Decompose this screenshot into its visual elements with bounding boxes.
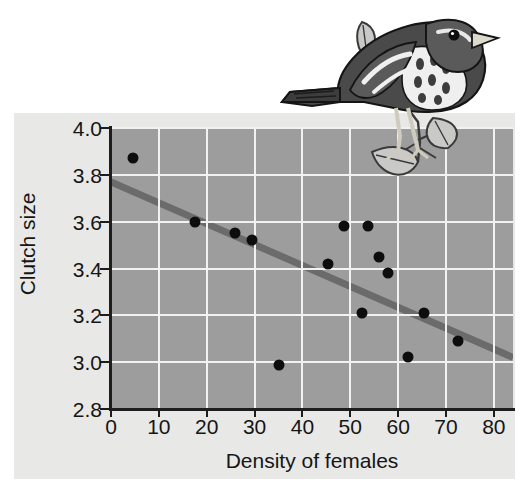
x-axis-tick-label: 40 <box>291 416 314 437</box>
x-axis-tick-label: 80 <box>482 416 505 437</box>
data-point <box>373 251 384 262</box>
x-axis-tick-label: 70 <box>434 416 457 437</box>
y-axis-tick-label: 3.6 <box>73 211 102 232</box>
gridline-horizontal <box>111 221 513 223</box>
gridline-horizontal <box>111 314 513 316</box>
y-axis-tick-label: 2.8 <box>73 399 102 420</box>
data-point <box>339 221 350 232</box>
y-axis-tick-labels: 2.83.03.23.43.63.84.0 <box>40 0 102 499</box>
y-axis <box>109 126 112 411</box>
data-point <box>323 258 334 269</box>
x-axis-title: Density of females <box>111 449 513 473</box>
data-point <box>190 216 201 227</box>
data-point <box>273 359 284 370</box>
gridline-vertical <box>206 128 208 409</box>
data-point <box>357 307 368 318</box>
data-point <box>247 235 258 246</box>
data-point <box>229 228 240 239</box>
y-axis-tick-label: 3.4 <box>73 258 102 279</box>
figure-container: 2.83.03.23.43.63.84.0 Density of females… <box>0 0 529 499</box>
x-axis-tick-label: 10 <box>147 416 170 437</box>
y-axis-title: Clutch size <box>16 154 40 334</box>
data-point <box>383 268 394 279</box>
data-point <box>453 336 464 347</box>
x-axis-tick-label: 30 <box>243 416 266 437</box>
gridline-vertical <box>254 128 256 409</box>
data-point <box>128 153 139 164</box>
data-point <box>418 307 429 318</box>
gridline-horizontal <box>111 361 513 363</box>
x-axis-tick-label: 20 <box>195 416 218 437</box>
x-axis-tick-label: 0 <box>105 416 117 437</box>
y-axis-tick-label: 4.0 <box>73 118 102 139</box>
data-point <box>363 221 374 232</box>
data-point <box>403 352 414 363</box>
y-axis-tick-label: 3.8 <box>73 164 102 185</box>
sparrow-on-branch-illustration <box>268 2 523 187</box>
y-axis-tick-label: 3.2 <box>73 305 102 326</box>
y-axis-tick-label: 3.0 <box>73 352 102 373</box>
x-axis-tick-label: 60 <box>386 416 409 437</box>
x-axis-tick-label: 50 <box>339 416 362 437</box>
gridline-vertical <box>158 128 160 409</box>
gridline-horizontal <box>111 268 513 270</box>
x-axis <box>109 408 515 411</box>
